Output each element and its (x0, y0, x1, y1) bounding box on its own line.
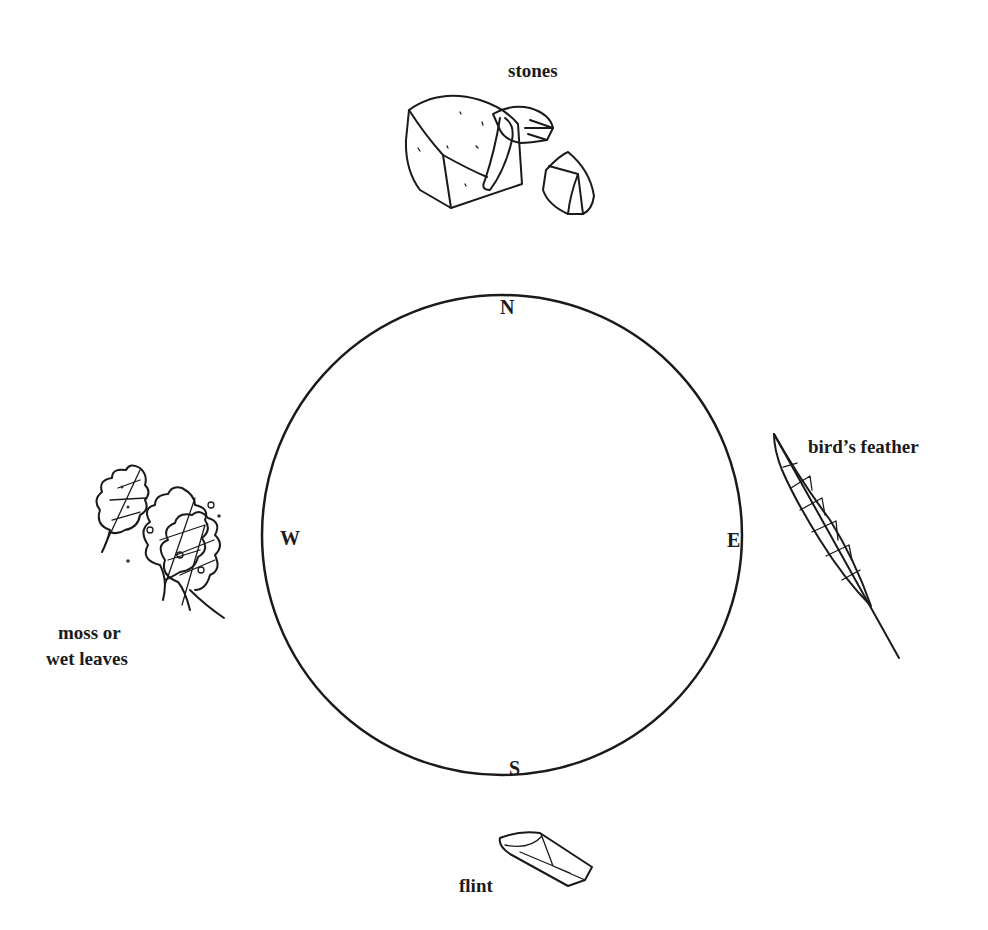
leaves-label-line1: moss or (58, 620, 121, 646)
leaves-icon (96, 465, 224, 618)
compass-east-label: E (727, 529, 740, 552)
stones-icon (406, 96, 594, 214)
stones-label: stones (508, 58, 558, 84)
compass-north-label: N (500, 296, 514, 319)
diagram-drawing (0, 0, 988, 930)
compass-diagram: N S E W stones bird’s feather flint moss… (0, 0, 988, 930)
compass-circle (262, 295, 742, 775)
leaves-label-line2: wet leaves (46, 646, 128, 672)
feather-label: bird’s feather (808, 434, 919, 460)
flint-icon (500, 832, 592, 886)
flint-label: flint (459, 873, 493, 899)
compass-south-label: S (509, 757, 520, 780)
feather-icon (774, 434, 899, 658)
compass-west-label: W (280, 527, 300, 550)
